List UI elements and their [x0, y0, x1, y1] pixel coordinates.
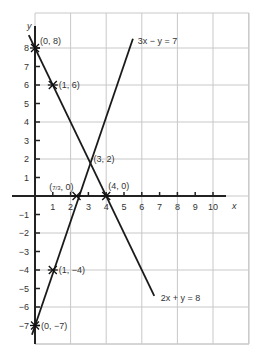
equation-label: 3x − y = 7 — [138, 36, 178, 46]
y-tick-label: −3 — [19, 247, 29, 257]
y-axis-label: y — [26, 21, 32, 31]
point-label: (1, 6) — [59, 80, 80, 90]
line-graph: xy 1234567891087654321−1−2−3−4−5−6−7 3x … — [0, 0, 257, 363]
point-label: (0, 8) — [40, 36, 61, 46]
equation-line — [29, 35, 154, 296]
point-label: (4, 0) — [108, 181, 129, 191]
x-tick-label: 3 — [86, 202, 91, 212]
x-tick-label: 5 — [121, 202, 126, 212]
y-tick-label: 7 — [24, 62, 29, 72]
y-tick-label: 2 — [24, 154, 29, 164]
y-tick-label: 8 — [24, 43, 29, 53]
y-tick-label: −6 — [19, 302, 29, 312]
equation-label: 2x + y = 8 — [161, 293, 201, 303]
x-tick-label: 4 — [104, 202, 109, 212]
y-tick-label: −2 — [19, 228, 29, 238]
grid — [35, 13, 249, 344]
y-tick-label: 3 — [24, 136, 29, 146]
y-tick-label: 4 — [24, 117, 29, 127]
y-tick-label: −7 — [19, 321, 29, 331]
y-tick-label: −5 — [19, 284, 29, 294]
x-tick-label: 2 — [68, 202, 73, 212]
x-tick-label: 6 — [139, 202, 144, 212]
point-label: (1, −4) — [59, 265, 85, 275]
x-tick-label: 10 — [208, 202, 218, 212]
y-tick-label: −4 — [19, 265, 29, 275]
x-tick-label: 1 — [50, 202, 55, 212]
y-tick-label: 1 — [24, 173, 29, 183]
star-marker-icon — [72, 192, 82, 200]
y-tick-label: 6 — [24, 80, 29, 90]
y-tick-label: 5 — [24, 99, 29, 109]
x-tick-label: 7 — [157, 202, 162, 212]
point-label: (7/3, 0) — [49, 182, 73, 192]
marked-points: (0, 8)(1, 6)(3, 2)(7/3, 0)(4, 0)(1, −4)(… — [30, 36, 129, 331]
star-marker-icon — [48, 81, 58, 89]
y-tick-label: −1 — [19, 210, 29, 220]
x-axis-label: x — [231, 201, 237, 211]
point-label: (0, −7) — [41, 321, 67, 331]
point-label: (3, 2) — [93, 154, 114, 164]
x-tick-label: 9 — [193, 202, 198, 212]
x-tick-label: 8 — [175, 202, 180, 212]
